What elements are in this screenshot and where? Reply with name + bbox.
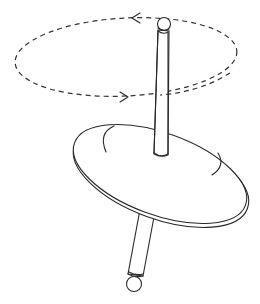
upper-rod xyxy=(154,30,169,156)
arrow-right-icon xyxy=(120,92,128,102)
bottom-ball xyxy=(127,277,142,292)
spinning-top-diagram xyxy=(0,0,260,304)
precession-path xyxy=(13,12,239,102)
